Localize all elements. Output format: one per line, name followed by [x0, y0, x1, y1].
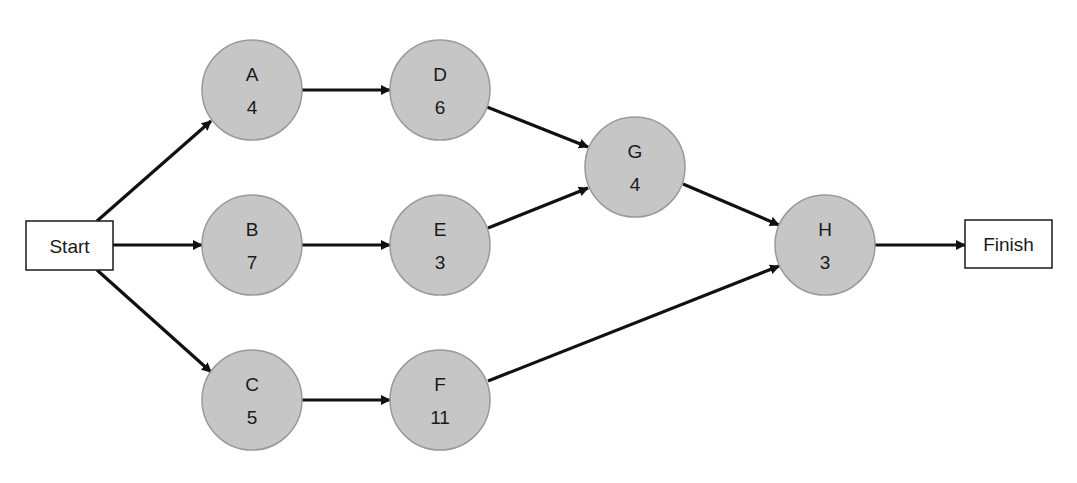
activity-duration: 7 [247, 252, 258, 273]
activity-label: F [434, 374, 446, 395]
node-circle [390, 195, 490, 295]
edge-f-to-h [488, 266, 779, 381]
node-circle [202, 40, 302, 140]
activity-duration: 3 [820, 252, 831, 273]
edge-e-to-g [488, 188, 588, 228]
activity-duration: 6 [435, 97, 446, 118]
activity-node-c: C5 [202, 350, 302, 450]
activity-node-b: B7 [202, 195, 302, 295]
node-circle [775, 195, 875, 295]
activity-label: D [433, 64, 447, 85]
activity-node-h: H3 [775, 195, 875, 295]
node-circle [585, 117, 685, 217]
start-label: Start [49, 236, 90, 257]
node-circle [390, 350, 490, 450]
activity-node-a: A4 [202, 40, 302, 140]
node-circle [202, 350, 302, 450]
activity-label: G [628, 141, 643, 162]
activity-label: C [245, 374, 259, 395]
network-diagram: A4B7C5D6E3F11G4H3 StartFinish [0, 0, 1077, 483]
start-box: Start [26, 221, 113, 270]
edge-start-to-c [97, 270, 211, 372]
activity-label: A [246, 64, 259, 85]
activity-label: E [434, 219, 447, 240]
activity-duration: 11 [430, 407, 450, 428]
activity-duration: 4 [247, 97, 258, 118]
activity-node-e: E3 [390, 195, 490, 295]
activity-node-g: G4 [585, 117, 685, 217]
activity-label: B [246, 219, 259, 240]
edge-g-to-h [683, 184, 779, 225]
edge-start-to-a [97, 121, 211, 221]
activity-duration: 3 [435, 252, 446, 273]
activity-node-f: F11 [390, 350, 490, 450]
activity-node-d: D6 [390, 40, 490, 140]
finish-label: Finish [983, 234, 1034, 255]
activity-label: H [818, 219, 832, 240]
finish-box: Finish [965, 220, 1052, 268]
activity-duration: 5 [247, 407, 258, 428]
edge-d-to-g [487, 107, 588, 147]
node-circle [390, 40, 490, 140]
activity-duration: 4 [630, 174, 641, 195]
node-circle [202, 195, 302, 295]
